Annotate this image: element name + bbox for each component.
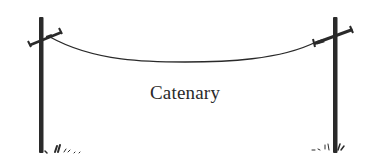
right-insulator [316,39,325,45]
right-grass-tuft [312,144,344,150]
hanging-cable [50,37,316,62]
left-pole-crossarm [29,31,62,47]
catenary-label: Catenary [0,82,370,104]
left-grass-tuft [45,145,80,153]
